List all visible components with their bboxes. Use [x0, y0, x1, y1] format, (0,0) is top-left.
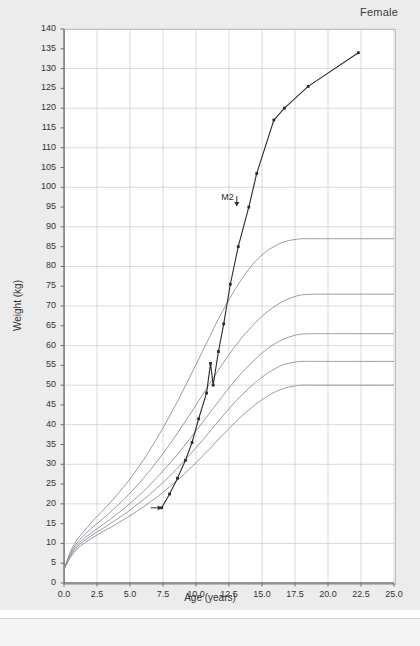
y-tick-label: 15	[20, 518, 56, 528]
y-tick-label: 20	[20, 498, 56, 508]
y-tick-label: 10	[20, 537, 56, 547]
y-tick-label: 50	[20, 379, 56, 389]
patient-data-point-marker	[255, 172, 258, 175]
patient-data-point-marker	[222, 322, 225, 325]
y-tick-label: 70	[20, 300, 56, 310]
patient-data-point-marker	[205, 392, 208, 395]
y-tick-label: 90	[20, 221, 56, 231]
patient-data-point-marker	[209, 362, 212, 365]
y-tick-label: 60	[20, 340, 56, 350]
growth-chart-page: Female Age (years) Weight (kg) 051015202…	[0, 0, 420, 646]
y-tick-label: 110	[20, 142, 56, 152]
y-tick-label: 45	[20, 399, 56, 409]
patient-data-point-marker	[168, 493, 171, 496]
growth-chart-svg	[0, 0, 420, 646]
patient-data-point-marker	[197, 417, 200, 420]
annotation-label: M2	[221, 192, 234, 202]
patient-weight-series	[160, 51, 359, 509]
patient-data-point-marker	[229, 283, 232, 286]
patient-data-point-marker	[307, 85, 310, 88]
y-tick-label: 65	[20, 320, 56, 330]
y-tick-label: 115	[20, 122, 56, 132]
y-tick-label: 95	[20, 201, 56, 211]
y-tick-label: 140	[20, 23, 56, 33]
chart-gridlines	[64, 29, 394, 583]
patient-data-point-marker	[357, 51, 360, 54]
patient-data-point-marker	[247, 206, 250, 209]
y-tick-label: 40	[20, 419, 56, 429]
annotation-arrowhead-down	[234, 202, 239, 207]
y-tick-label: 30	[20, 458, 56, 468]
y-tick-label: 75	[20, 280, 56, 290]
y-tick-label: 25	[20, 478, 56, 488]
y-tick-label: 105	[20, 162, 56, 172]
patient-data-point-marker	[191, 441, 194, 444]
y-tick-label: 120	[20, 102, 56, 112]
y-tick-label: 35	[20, 439, 56, 449]
patient-data-point-marker	[184, 459, 187, 462]
patient-data-point-marker	[283, 107, 286, 110]
x-tick-label: 25.0	[374, 589, 414, 599]
patient-data-point-marker	[212, 384, 215, 387]
y-tick-label: 0	[20, 577, 56, 587]
y-tick-label: 130	[20, 63, 56, 73]
patient-data-point-marker	[237, 245, 240, 248]
y-tick-label: 80	[20, 260, 56, 270]
annotation-arrowhead-right	[158, 505, 163, 510]
y-tick-label: 55	[20, 359, 56, 369]
y-tick-label: 5	[20, 557, 56, 567]
y-tick-label: 100	[20, 181, 56, 191]
y-tick-label: 135	[20, 43, 56, 53]
patient-weight-line	[162, 53, 359, 508]
y-tick-label: 125	[20, 82, 56, 92]
y-tick-label: 85	[20, 241, 56, 251]
patient-data-point-marker	[272, 119, 275, 122]
patient-data-point-marker	[217, 350, 220, 353]
patient-data-point-marker	[176, 477, 179, 480]
